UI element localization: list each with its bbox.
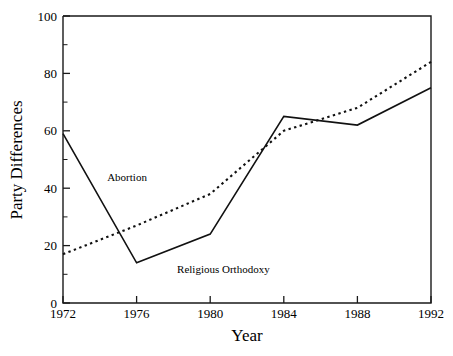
axis-frame <box>63 16 431 303</box>
plot-border <box>63 16 431 303</box>
y-axis-title: Party Differences <box>7 100 26 219</box>
x-tick-label-1984: 1984 <box>271 306 298 321</box>
y-axis-tick-labels: 0 20 40 60 80 100 <box>38 9 58 311</box>
x-tick-label-1972: 1972 <box>50 306 76 321</box>
y-tick-label-80: 80 <box>44 66 57 81</box>
series-annotation-religious-orthodoxy: Religious Orthodoxy <box>177 263 270 275</box>
x-tick-label-1988: 1988 <box>344 306 370 321</box>
y-tick-label-40: 40 <box>44 181 57 196</box>
x-tick-label-1976: 1976 <box>124 306 151 321</box>
series-line-abortion <box>63 62 431 254</box>
x-axis-major-ticks <box>63 296 431 303</box>
chart-figure: 0 20 40 60 80 100 1972 1976 1980 1984 19… <box>0 0 453 356</box>
x-axis-tick-labels: 1972 1976 1980 1984 1988 1992 <box>50 306 444 321</box>
y-tick-label-20: 20 <box>44 238 57 253</box>
x-tick-label-1992: 1992 <box>418 306 444 321</box>
x-tick-label-1980: 1980 <box>197 306 223 321</box>
y-tick-label-100: 100 <box>38 9 58 24</box>
y-tick-label-60: 60 <box>44 123 57 138</box>
line-chart: 0 20 40 60 80 100 1972 1976 1980 1984 19… <box>0 0 453 356</box>
series-annotation-abortion: Abortion <box>107 171 147 183</box>
x-axis-title: Year <box>231 326 263 345</box>
